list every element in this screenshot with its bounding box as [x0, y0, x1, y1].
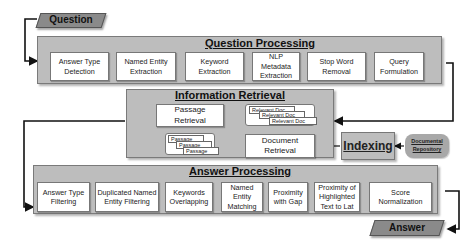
answer-label: Answer [372, 222, 442, 233]
ap-step-proximity-of-highlighted-text-to-lat: Proximity of Highlighted Text to Lat [314, 182, 360, 212]
question-label: Question [38, 14, 104, 25]
qp-step-query-formulation: Query Formulation [374, 52, 424, 81]
ap-step-proximity-with-gap: Proximity with Gap [268, 182, 308, 212]
ap-step-named-entity-matching: Named Entity Matching [221, 182, 263, 212]
qp-step-stop-word-removal: Stop Word Removal [307, 52, 366, 81]
passages-stack: Passage Passage Passage [165, 133, 215, 155]
indexing-box: Indexing [341, 132, 395, 160]
document-retrieval-box: Document Retrieval [245, 134, 315, 158]
qp-step-nlp-metadata-extraction: NLP Metadata Extraction [252, 52, 300, 81]
qp-step-keyword-extraction: Keyword Extraction [185, 52, 244, 81]
passage-retrieval-box: Passage Retrieval [156, 104, 224, 127]
qp-step-answer-type-detection: Answer Type Detection [50, 52, 109, 81]
documental-repository-cylinder: Documental Repository [405, 134, 449, 158]
ap-step-duplicated-named-entity-filtering: Duplicated Named Entity Filtering [95, 182, 159, 212]
relevant-doc-slip: Relevant Doc [269, 117, 317, 125]
relevant-docs-stack: Relevant Doc Relevant Doc Relevant Doc [245, 104, 315, 126]
information-retrieval-title: Information Retrieval [160, 89, 300, 101]
passage-slip: Passage [183, 147, 219, 155]
qp-step-named-entity-extraction: Named Entity Extraction [116, 52, 176, 81]
answer-processing-title: Answer Processing [180, 165, 300, 177]
ap-step-keywords-overlapping: Keywords Overlapping [165, 182, 213, 212]
ap-step-answer-type-filtering: Answer Type Filtering [37, 182, 90, 212]
ap-step-score-normalization: Score Normalization [369, 182, 432, 212]
question-processing-title: Question Processing [190, 37, 330, 49]
